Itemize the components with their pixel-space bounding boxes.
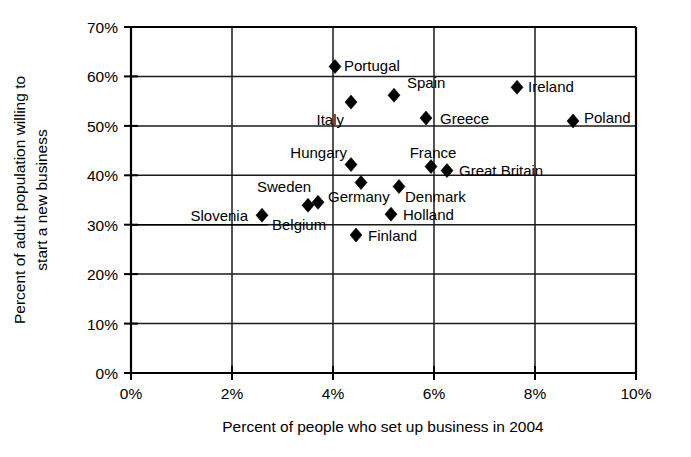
y-tick-label-10: 10% [87,316,118,333]
x-tick-labels: 0% 2% 4% 6% 8% 10% [120,385,652,402]
x-tick-label-0: 0% [120,385,143,402]
data-label-slovenia: Slovenia [190,207,248,224]
data-label-finland: Finland [368,227,417,244]
y-tick-label-0: 0% [96,365,119,382]
data-point-italy[interactable] [345,95,357,109]
data-label-hungary: Hungary [290,144,347,161]
data-point-portugal[interactable] [329,60,341,74]
y-tick-label-30: 30% [87,217,118,234]
scatter-chart: 70% 60% 50% 40% 30% 20% 10% 0% 0% 2% 4% … [0,0,691,457]
data-label-sweden: Sweden [257,178,311,195]
y-tick-label-20: 20% [87,266,118,283]
data-point-denmark[interactable] [393,180,405,194]
data-points: Portugal Ireland Spain Italy Greece Pola… [190,57,630,244]
data-point-sweden[interactable] [302,198,314,212]
x-tick-label-8: 8% [524,385,547,402]
data-point-holland[interactable] [385,207,397,221]
data-label-france: France [410,144,457,161]
data-point-spain[interactable] [388,88,400,102]
y-tick-labels: 70% 60% 50% 40% 30% 20% 10% 0% [87,19,118,382]
x-tick-label-10: 10% [620,385,651,402]
data-label-germany: Germany [328,188,390,205]
y-tick-label-70: 70% [87,19,118,36]
data-label-italy: Italy [316,111,344,128]
data-point-belgium[interactable] [312,195,324,209]
data-label-belgium: Belgium [272,216,326,233]
y-tick-label-40: 40% [87,167,118,184]
data-label-portugal: Portugal [344,57,400,74]
data-point-greece[interactable] [420,111,432,125]
data-label-spain: Spain [407,74,445,91]
y-axis-title-line1: Percent of adult population willing to [11,76,28,324]
data-label-greece: Greece [440,110,489,127]
data-label-denmark: Denmark [405,188,466,205]
x-axis-title: Percent of people who set up business in… [222,418,544,435]
plot-area: 70% 60% 50% 40% 30% 20% 10% 0% 0% 2% 4% … [0,0,691,457]
y-tick-label-60: 60% [87,68,118,85]
data-point-france[interactable] [425,160,437,174]
data-label-holland: Holland [403,206,454,223]
data-point-finland[interactable] [350,228,362,242]
data-label-great-britain: Great Britain [459,162,543,179]
x-tick-label-4: 4% [322,385,345,402]
x-tick-label-2: 2% [221,385,244,402]
y-tick-label-50: 50% [87,118,118,135]
data-label-poland: Poland [584,109,631,126]
y-axis-title-line2: start a new business [33,129,50,271]
data-point-slovenia[interactable] [256,208,268,222]
x-tick-label-6: 6% [423,385,446,402]
data-point-ireland[interactable] [511,80,523,94]
data-label-ireland: Ireland [528,78,574,95]
